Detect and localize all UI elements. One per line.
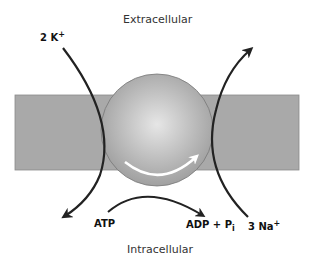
intracellular-label: Intracellular (127, 243, 193, 256)
sodium-ion-label: 3 Na+ (248, 219, 280, 232)
pump-protein-sphere (101, 74, 213, 186)
adp-pi-label: ADP + Pi (186, 219, 235, 233)
extracellular-label: Extracellular (123, 13, 192, 26)
atp-label: ATP (94, 218, 115, 229)
pi-subscript: i (232, 224, 235, 233)
potassium-charge: + (58, 30, 65, 39)
potassium-ion-label: 2 K+ (40, 30, 65, 43)
sodium-charge: + (274, 219, 281, 228)
potassium-count: 2 K (40, 32, 58, 43)
atp-hydrolysis-arrow (108, 197, 202, 215)
sodium-count: 3 Na (248, 221, 274, 232)
adp-text: ADP + P (186, 219, 232, 230)
